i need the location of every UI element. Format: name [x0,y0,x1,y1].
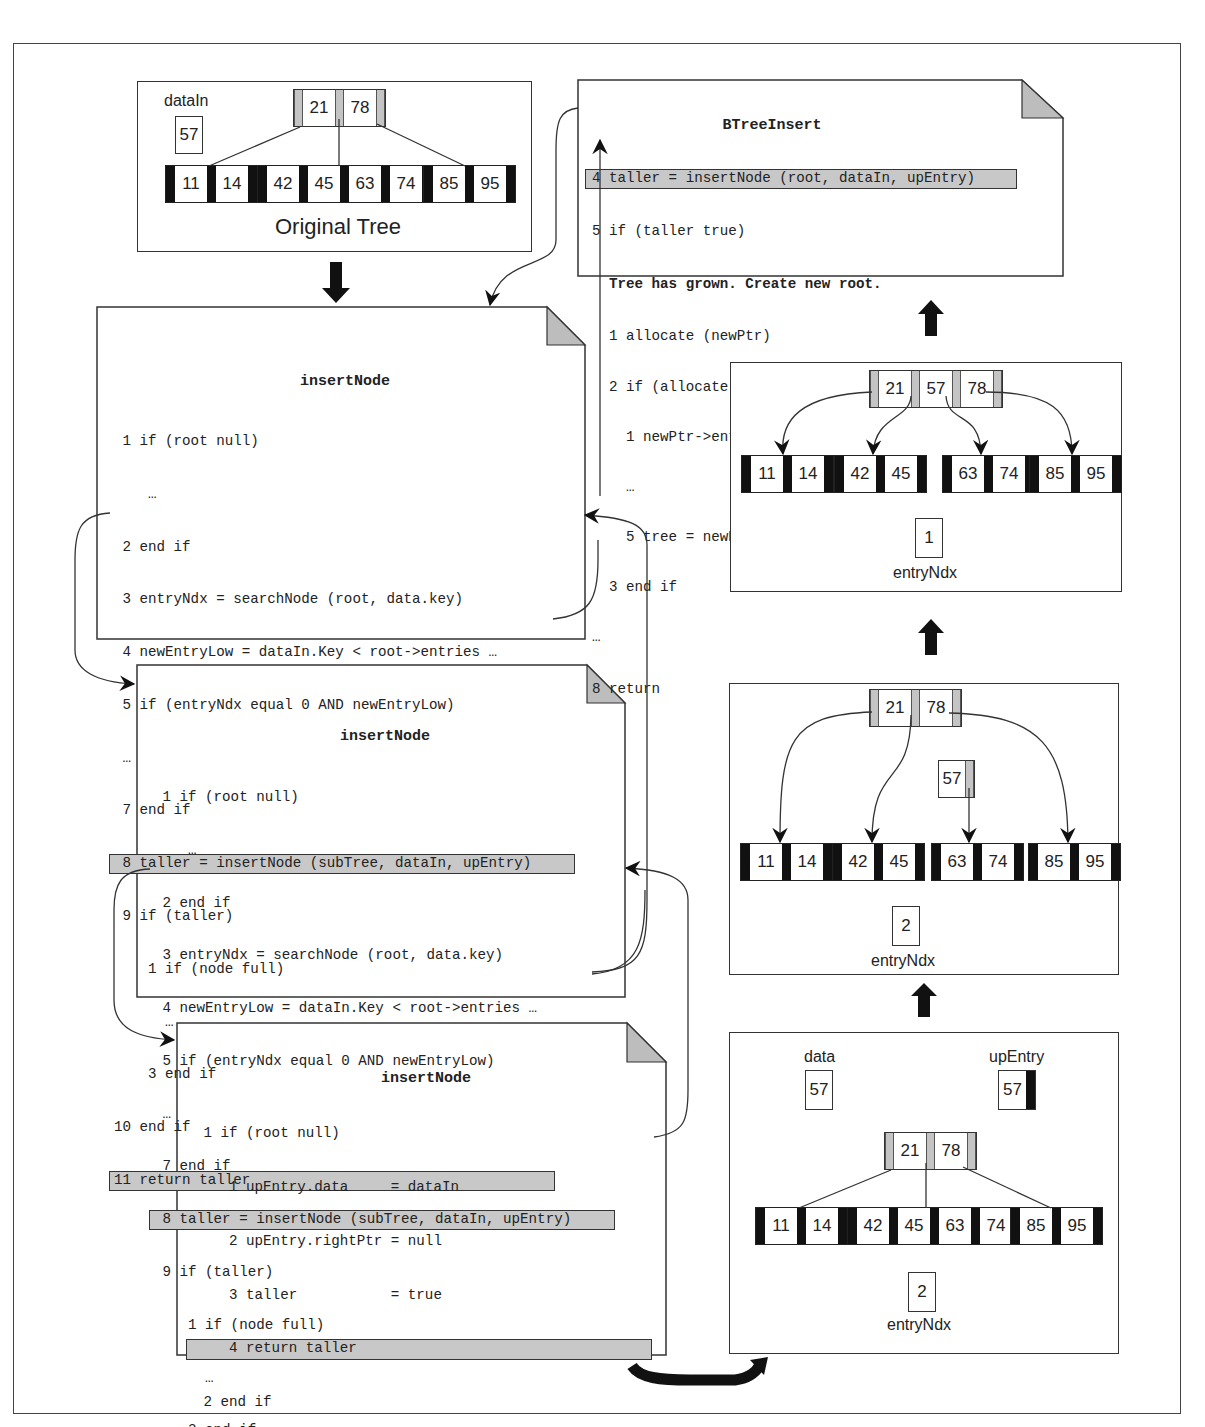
key: 11 [750,844,782,880]
btree-insert-title: BTreeInsert [582,117,962,135]
code-line: 1 if (root null) [195,1125,657,1144]
key: 21 [879,690,911,726]
code-line: 2 upEntry.rightPtr = null [195,1233,657,1252]
split-leaf-4: 85 95 [1028,843,1121,881]
split-leaf-2: 42 45 [832,843,925,881]
key: 63 [941,844,973,880]
key: 95 [1061,1208,1093,1244]
code-line: 4 newEntryLow = dataIn.Key < root->entri… [114,644,576,662]
key: 63 [939,1208,971,1244]
key: 78 [920,690,952,726]
data-value: 57 [805,1070,833,1110]
split-leaf-1: 11 14 [740,843,833,881]
key: 11 [765,1208,797,1244]
code-line: 2 end if [195,1394,657,1413]
key: 85 [1039,456,1071,492]
final-leaf-1: 11 14 [741,455,834,493]
code-line: 1 if (root null) [114,433,576,451]
data-label: data [804,1048,835,1066]
code-line: … [154,842,616,860]
key: 74 [982,844,1014,880]
leaf-state-leaf-2: 42 45 63 74 [847,1207,1022,1245]
code-line: 5 if (taller true) [592,223,1032,241]
code-line: 4 newEntryLow = dataIn.Key < root->entri… [154,1000,616,1018]
key: 21 [894,1133,926,1169]
entryndx-value: 2 [908,1272,936,1312]
key: 21 [879,371,911,407]
insert-node-1-title: insertNode [114,373,576,391]
key: 85 [1020,1208,1052,1244]
insert-node-2-title: insertNode [154,728,616,746]
key: 57 [939,761,965,797]
key: 74 [980,1208,1012,1244]
key: 74 [993,456,1025,492]
split-leaf-3: 63 74 [931,843,1024,881]
leaf-state-leaf-3: 85 95 [1010,1207,1103,1245]
code-line: 1 allocate (newPtr) [592,328,1032,343]
final-root-node: 21 57 78 [869,370,1003,408]
key: 14 [806,1208,838,1244]
final-leaf-4: 85 95 [1029,455,1122,493]
entryndx-label: entryNdx [887,1316,951,1334]
key: 42 [857,1208,889,1244]
upentry-label: upEntry [989,1048,1044,1066]
up-entry-node: 57 [938,760,975,798]
code-line: … [114,486,576,504]
key: 42 [842,844,874,880]
key: 45 [898,1208,930,1244]
code-line: 2 end if [114,539,576,557]
key: 57 [920,371,952,407]
entryndx-label: entryNdx [893,564,957,582]
key: 78 [935,1133,967,1169]
leaf-state-leaf-1: 11 14 [755,1207,848,1245]
leaf-state-root-node: 21 78 [884,1132,977,1170]
code-line-comment: Tree has grown. Create new root. [592,276,1032,294]
entryndx-value: 2 [892,906,920,946]
entryndx-label: entryNdx [871,952,935,970]
key: 45 [883,844,915,880]
code-line: 1 if (root null) [154,789,616,807]
final-leaf-3: 63 74 [942,455,1035,493]
key: 14 [792,456,824,492]
key: 42 [844,456,876,492]
code-line: … [592,629,1032,645]
key: 78 [961,371,993,407]
key: 11 [751,456,783,492]
key: 95 [1079,844,1111,880]
code-line: 3 entryNdx = searchNode (root, data.key) [154,947,616,965]
key: 57 [999,1071,1026,1109]
entryndx-value: 1 [915,518,943,558]
code-line: 1 upEntry.data = dataIn [195,1179,657,1198]
code-line: 3 entryNdx = searchNode (root, data.key) [114,591,576,609]
code-line: 2 end if [154,895,616,913]
key: 85 [1038,844,1070,880]
split-root-node: 21 78 [869,689,962,727]
insert-node-3-code: insertNode 1 if (root null) 1 upEntry.da… [195,1035,657,1427]
final-leaf-2: 42 45 [834,455,927,493]
code-line-highlighted: 4 taller = insertNode (root, dataIn, upE… [586,170,1016,188]
key: 14 [791,844,823,880]
upentry-value: 57 [998,1070,1036,1110]
key: 45 [885,456,917,492]
insert-node-3-title: insertNode [195,1070,657,1088]
key: 63 [952,456,984,492]
code-line-highlighted: 4 return taller [187,1340,651,1359]
key: 95 [1080,456,1112,492]
code-line: 3 taller = true [195,1287,657,1306]
